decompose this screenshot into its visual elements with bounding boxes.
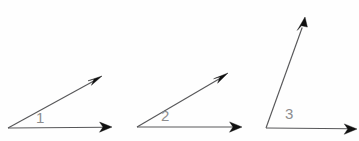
three-angles-figure: 1 2 3 (0, 0, 359, 141)
angle-1-group (8, 76, 112, 132)
angle-1-diagonal-ray (8, 80, 97, 128)
angle-2-group (137, 73, 242, 132)
angle-2-label: 2 (161, 108, 169, 123)
angle-1-diagonal-arrowhead (88, 76, 102, 85)
angle-3-group (266, 17, 357, 134)
angle-1-horizontal-ray (8, 127, 106, 128)
angle-3-label: 3 (285, 106, 293, 121)
angle-2-diagonal-ray (137, 77, 222, 127)
angle-2-diagonal-arrowhead (214, 73, 228, 83)
angle-3-horizontal-ray (266, 128, 350, 129)
angle-1-label: 1 (36, 110, 44, 125)
angles-vector-canvas (0, 0, 359, 141)
